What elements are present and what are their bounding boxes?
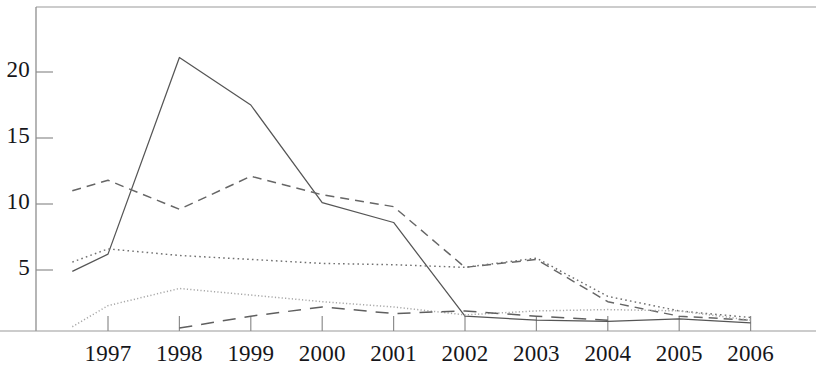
y-tick-label: 20 bbox=[0, 57, 30, 83]
line-chart: 5101520 19971998199920002001200220032004… bbox=[0, 0, 818, 374]
series-lines-layer bbox=[72, 57, 750, 328]
series-light-dotted bbox=[72, 288, 750, 326]
series-dotted bbox=[72, 249, 750, 318]
y-tick-label: 10 bbox=[0, 189, 30, 215]
y-tick-label: 5 bbox=[0, 255, 30, 281]
series-solid bbox=[72, 57, 750, 322]
chart-plot-area bbox=[0, 0, 818, 374]
y-tick-label: 15 bbox=[0, 123, 30, 149]
series-dashed bbox=[72, 176, 750, 320]
y-axis-ticks bbox=[36, 72, 53, 270]
x-tick-label: 2006 bbox=[706, 341, 796, 367]
